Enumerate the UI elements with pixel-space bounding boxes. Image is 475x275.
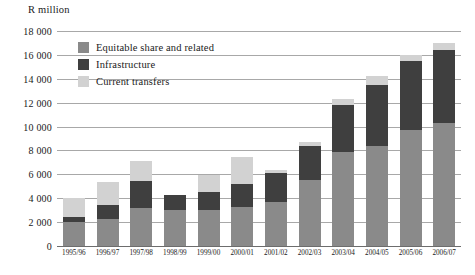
y-axis-tick-label: 10 000 xyxy=(23,121,52,132)
y-axis-tick-label: 0 xyxy=(47,241,52,252)
bar-segment xyxy=(366,76,388,85)
legend-label: Current transfers xyxy=(96,76,169,87)
y-axis-tick-label: 2 000 xyxy=(29,217,53,228)
bar-segment xyxy=(299,146,321,181)
bar-segment xyxy=(231,207,253,246)
bar-segment xyxy=(433,50,455,123)
bar-segment xyxy=(63,222,85,246)
x-axis-tick-label: 1995/96 xyxy=(62,249,86,257)
y-axis-unit-label: R million xyxy=(28,4,70,15)
y-axis-tick-label: 16 000 xyxy=(23,49,52,60)
y-axis-tick-label: 18 000 xyxy=(23,26,52,37)
bar-segment xyxy=(97,182,119,205)
bar-segment xyxy=(265,170,287,173)
y-axis-tick-label: 12 000 xyxy=(23,97,52,108)
bar-group xyxy=(231,31,253,246)
x-axis-tick-label: 2005/06 xyxy=(399,249,423,257)
bar-segment xyxy=(130,208,152,246)
x-axis-tick-label: 1997/98 xyxy=(129,249,153,257)
bar-segment xyxy=(400,55,422,61)
gridline xyxy=(57,246,461,247)
bar-segment xyxy=(400,61,422,130)
y-axis-tick-label: 14 000 xyxy=(23,73,52,84)
bar-segment xyxy=(198,210,220,246)
y-axis-tick-labels: 02 0004 0006 0008 00010 00012 00014 0001… xyxy=(0,31,52,246)
bar-segment xyxy=(366,85,388,146)
bar-segment xyxy=(164,195,186,211)
legend-item: Current transfers xyxy=(78,74,214,89)
x-axis-tick-label: 2002/03 xyxy=(298,249,322,257)
bar-segment xyxy=(164,210,186,246)
bar-group xyxy=(433,31,455,246)
bar-segment xyxy=(332,105,354,152)
legend-item: Infrastructure xyxy=(78,57,214,72)
bar-segment xyxy=(366,146,388,246)
legend-label: Infrastructure xyxy=(96,59,155,70)
bar-segment xyxy=(265,202,287,246)
x-axis-tick-label: 2003/04 xyxy=(331,249,355,257)
y-axis-tick-label: 4 000 xyxy=(29,193,53,204)
bar-group xyxy=(332,31,354,246)
bar-segment xyxy=(231,184,253,207)
x-axis-tick-labels: 1995/961996/971997/981998/991999/002000/… xyxy=(57,249,461,267)
bar-segment xyxy=(332,152,354,246)
bar-segment xyxy=(198,192,220,211)
x-axis-tick-label: 2000/01 xyxy=(230,249,254,257)
bar-segment xyxy=(63,217,85,222)
bar-segment xyxy=(299,142,321,146)
x-axis-tick-label: 2006/07 xyxy=(432,249,456,257)
bar-group xyxy=(366,31,388,246)
y-axis-tick-label: 8 000 xyxy=(29,145,53,156)
bar-segment xyxy=(265,173,287,202)
bar-segment xyxy=(97,205,119,219)
bar-segment xyxy=(433,43,455,50)
x-axis-tick-label: 2004/05 xyxy=(365,249,389,257)
stacked-bar-chart: R million 02 0004 0006 0008 00010 00012 … xyxy=(0,0,475,275)
bar-segment xyxy=(433,123,455,246)
bar-group xyxy=(400,31,422,246)
bar-segment xyxy=(130,161,152,181)
bar-group xyxy=(299,31,321,246)
legend-label: Equitable share and related xyxy=(96,42,214,53)
legend-swatch-icon xyxy=(78,59,89,70)
legend-item: Equitable share and related xyxy=(78,40,214,55)
chart-legend: Equitable share and relatedInfrastructur… xyxy=(78,40,214,91)
bar-segment xyxy=(231,157,253,184)
bar-segment xyxy=(63,198,85,217)
y-axis-tick-label: 6 000 xyxy=(29,169,53,180)
x-axis-tick-label: 2001/02 xyxy=(264,249,288,257)
bar-segment xyxy=(130,181,152,208)
legend-swatch-icon xyxy=(78,76,89,87)
bar-group xyxy=(265,31,287,246)
bar-segment xyxy=(299,180,321,246)
legend-swatch-icon xyxy=(78,42,89,53)
x-axis-tick-label: 1996/97 xyxy=(96,249,120,257)
bar-segment xyxy=(332,99,354,105)
x-axis-tick-label: 1998/99 xyxy=(163,249,187,257)
x-axis-tick-label: 1999/00 xyxy=(197,249,221,257)
bar-segment xyxy=(400,130,422,246)
bar-segment xyxy=(198,175,220,192)
bar-segment xyxy=(97,219,119,246)
